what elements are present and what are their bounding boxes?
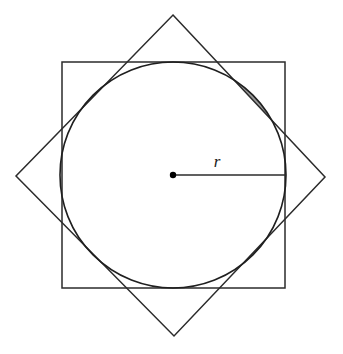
geometry-figure: r [0,0,343,354]
circle-center-dot [170,172,176,178]
radius-label: r [214,152,221,171]
geometry-diagram-svg: r [0,0,343,354]
